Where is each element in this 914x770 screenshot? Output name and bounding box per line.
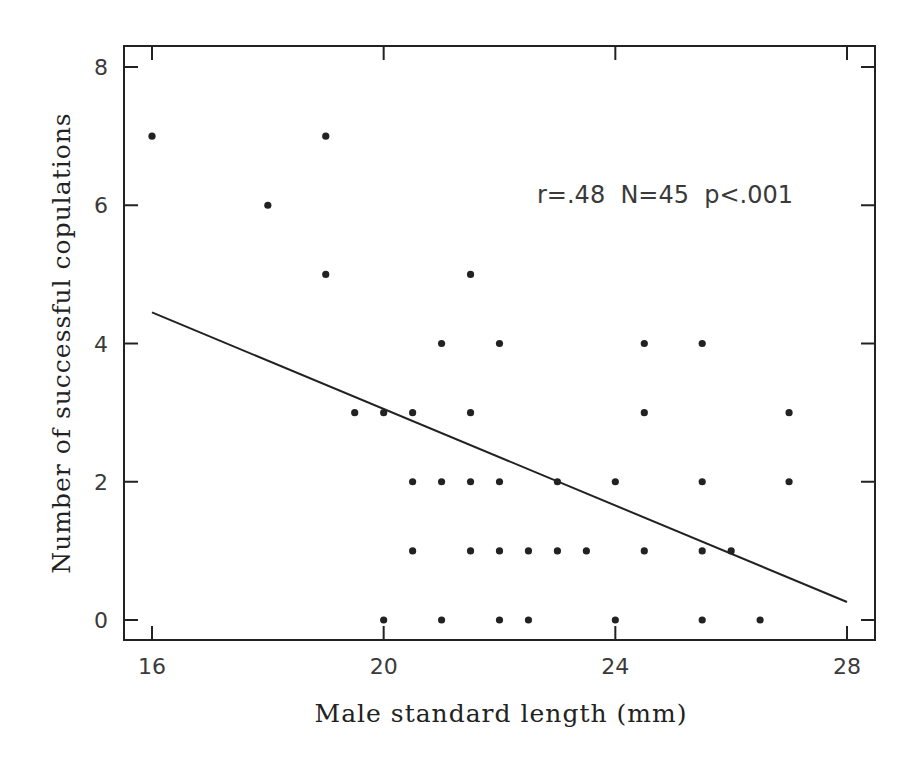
data-point <box>438 340 445 347</box>
data-point <box>728 547 735 554</box>
data-point <box>380 409 387 416</box>
data-point <box>496 616 503 623</box>
data-point <box>699 616 706 623</box>
data-point <box>148 133 155 140</box>
data-point <box>496 340 503 347</box>
y-tick-labels: 02468 <box>94 55 108 633</box>
data-point <box>554 547 561 554</box>
regression-line <box>152 312 847 602</box>
data-point <box>322 271 329 278</box>
data-point <box>699 340 706 347</box>
data-point <box>264 202 271 209</box>
y-tick-label: 6 <box>94 193 108 218</box>
data-point <box>467 547 474 554</box>
y-tick-label: 2 <box>94 470 108 495</box>
data-point <box>467 409 474 416</box>
y-tick-label: 8 <box>94 55 108 80</box>
x-tick-labels: 16202428 <box>138 654 861 679</box>
data-point <box>525 616 532 623</box>
data-point <box>785 409 792 416</box>
data-point <box>641 340 648 347</box>
x-axis-title: Male standard length (mm) <box>315 699 688 728</box>
x-tick-label: 24 <box>601 654 629 679</box>
y-tick-label: 0 <box>94 608 108 633</box>
x-tick-label: 28 <box>833 654 861 679</box>
data-point <box>757 616 764 623</box>
data-point <box>409 547 416 554</box>
x-tick-label: 16 <box>138 654 166 679</box>
data-point <box>351 409 358 416</box>
y-tick-label: 4 <box>94 332 108 357</box>
data-point <box>496 478 503 485</box>
data-point <box>322 133 329 140</box>
fit-line <box>152 312 847 602</box>
data-point <box>409 478 416 485</box>
stats-annotation: r=.48 N=45 p<.001 <box>537 181 793 209</box>
scatter-chart: 16202428 02468 r=.48 N=45 p<.001 Male st… <box>0 0 914 770</box>
x-tick-label: 20 <box>370 654 398 679</box>
data-point <box>641 409 648 416</box>
data-point <box>467 271 474 278</box>
data-point <box>525 547 532 554</box>
data-point <box>496 547 503 554</box>
data-point <box>380 616 387 623</box>
data-point <box>612 478 619 485</box>
data-point <box>554 478 561 485</box>
data-point <box>438 616 445 623</box>
data-point <box>409 409 416 416</box>
data-point <box>699 547 706 554</box>
data-point <box>785 478 792 485</box>
data-point <box>583 547 590 554</box>
data-point <box>467 478 474 485</box>
y-axis-title: Number of successful copulations <box>47 112 76 573</box>
data-point <box>612 616 619 623</box>
data-point <box>438 478 445 485</box>
data-point <box>641 547 648 554</box>
data-point <box>699 478 706 485</box>
